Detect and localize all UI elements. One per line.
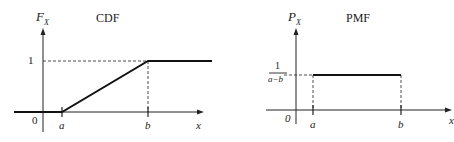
cdf-x-label: x: [196, 119, 201, 131]
cdf-curve: [14, 61, 212, 112]
pmf-y-axis-arrow-icon: [294, 28, 299, 35]
cdf-y-tick-1: 1: [28, 54, 34, 66]
cdf-y-axis-arrow-icon: [41, 28, 46, 35]
pmf-title: PMF: [346, 11, 370, 26]
cdf-origin-label: 0: [32, 114, 38, 126]
pmf-x-label: x: [449, 114, 454, 126]
pmf-chart: PX PMF 1 a−b 0 a b x: [230, 0, 453, 142]
cdf-y-label: FX: [36, 9, 49, 27]
cdf-x-tick-b: b: [145, 119, 151, 131]
cdf-x-axis-arrow-icon: [197, 110, 204, 115]
pmf-x-axis-arrow-icon: [445, 108, 452, 113]
pmf-y-tick-numerator: 1: [275, 60, 280, 71]
pmf-x-tick-b: b: [398, 118, 404, 130]
cdf-chart: FX CDF 1 0 a b x: [0, 0, 230, 142]
pmf-y-tick-denominator: a−b: [268, 74, 283, 84]
pmf-x-tick-a: a: [310, 118, 316, 130]
pmf-plot-area: [230, 0, 453, 142]
cdf-title: CDF: [96, 11, 119, 26]
cdf-x-tick-a: a: [59, 119, 65, 131]
pmf-origin-label: 0: [285, 112, 291, 124]
pmf-y-label: PX: [288, 9, 301, 27]
